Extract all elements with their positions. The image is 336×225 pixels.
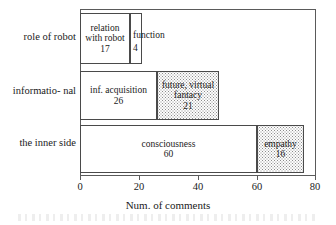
bar-segment-function: function 4	[130, 13, 142, 64]
category-label-informational: informatio- nal	[0, 85, 76, 98]
category-label-role-of-robot: role of robot	[0, 31, 76, 44]
category-label-text: the inner side	[19, 137, 76, 148]
bar-segment-empathy: empathy 16	[257, 125, 304, 173]
bar-segment-label: inf. acquisition	[90, 85, 147, 96]
bar-segment-consciousness: consciousness 60	[80, 125, 257, 173]
bar-segment-relation-with-robot: relation with robot 17	[80, 13, 130, 64]
bar-segment-inf-acquisition: inf. acquisition 26	[80, 71, 157, 120]
x-tick-mark-80	[315, 176, 316, 180]
bar-segment-label: function	[133, 30, 165, 41]
category-label-text: informatio- nal	[13, 85, 76, 96]
x-tick-label-40: 40	[193, 181, 204, 192]
bar-segment-label: future, virtual fantacy	[162, 80, 214, 101]
scan-artifact	[18, 214, 318, 221]
x-tick-mark-60	[257, 176, 258, 180]
stacked-bar-chart: role of robot relation with robot 17 fun…	[0, 0, 336, 225]
x-tick-mark-20	[139, 176, 140, 180]
bar-segment-label: relation with robot	[85, 23, 124, 44]
category-label-the-inner-side: the inner side	[0, 137, 76, 150]
x-tick-label-80: 80	[310, 181, 321, 192]
bar-segment-value: 4	[133, 43, 138, 54]
x-tick-label-0: 0	[77, 181, 82, 192]
category-label-text: role of robot	[24, 31, 77, 42]
bar-segment-value: 16	[276, 149, 286, 160]
x-axis-title: Num. of comments	[0, 199, 336, 211]
x-tick-label-60: 60	[252, 181, 263, 192]
bar-segment-future-virtual-fantacy: future, virtual fantacy 21	[157, 71, 219, 120]
bar-segment-value: 17	[100, 44, 110, 55]
x-tick-label-20: 20	[134, 181, 145, 192]
bar-segment-value: 60	[164, 149, 174, 160]
bar-segment-value: 21	[183, 101, 193, 112]
bar-segment-label: empathy	[264, 139, 297, 150]
x-tick-mark-0	[80, 176, 81, 180]
bar-segment-label: consciousness	[142, 139, 196, 150]
bar-segment-value: 26	[114, 96, 124, 107]
x-tick-mark-40	[198, 176, 199, 180]
